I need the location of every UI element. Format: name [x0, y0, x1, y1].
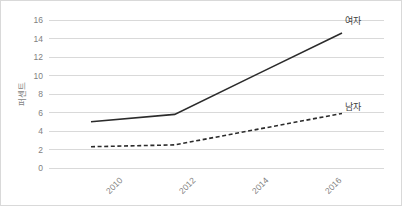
x-tick-2010: 2010	[104, 175, 125, 196]
y-tick-2: 2	[38, 145, 43, 155]
x-tick-2012: 2012	[177, 175, 198, 196]
x-axis-tick-labels: 2010 2012 2014 2016	[104, 175, 344, 196]
series-label-female: 여자	[345, 15, 362, 26]
series-line-female	[91, 33, 342, 122]
x-tick-2014: 2014	[250, 175, 271, 196]
y-tick-6: 6	[38, 108, 43, 118]
series-label-male: 남자	[345, 102, 362, 112]
y-tick-4: 4	[38, 126, 43, 136]
y-tick-14: 14	[34, 34, 44, 44]
x-tick-2016: 2016	[323, 175, 344, 196]
y-tick-10: 10	[34, 71, 44, 81]
line-chart: 16 14 12 10 8 6 4 2 0 퍼센트 2010 2012 2014…	[1, 1, 403, 207]
y-tick-0: 0	[38, 163, 43, 173]
y-axis-title: 퍼센트	[17, 82, 27, 106]
y-tick-8: 8	[38, 89, 43, 99]
y-tick-16: 16	[34, 15, 44, 25]
y-axis-tick-labels: 16 14 12 10 8 6 4 2 0	[34, 15, 44, 173]
chart-container: 16 14 12 10 8 6 4 2 0 퍼센트 2010 2012 2014…	[0, 0, 402, 206]
y-tick-12: 12	[34, 52, 44, 62]
